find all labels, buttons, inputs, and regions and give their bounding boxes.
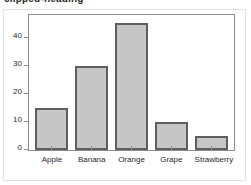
x-axis-tick bbox=[75, 146, 108, 151]
y-axis-tick-mark bbox=[24, 121, 28, 122]
x-axis-category-label: Strawberry bbox=[195, 155, 228, 167]
y-axis: 010203040 bbox=[0, 0, 28, 185]
x-axis-tick-mark bbox=[171, 146, 172, 150]
x-axis-category-label: Grape bbox=[155, 155, 188, 167]
bar[interactable] bbox=[115, 23, 148, 150]
bar-slot bbox=[75, 15, 108, 150]
bar[interactable] bbox=[75, 66, 108, 150]
x-axis-category-label: Orange bbox=[115, 155, 148, 167]
x-axis-labels: AppleBananaOrangeGrapeStrawberry bbox=[29, 155, 234, 167]
y-axis-tick-label: 40 bbox=[13, 32, 22, 40]
y-axis-tick-mark bbox=[24, 37, 28, 38]
x-axis-tick-mark bbox=[51, 146, 52, 150]
y-axis-tick-label: 20 bbox=[13, 88, 22, 96]
chart-screenshot: clipped-heading 010203040 AppleBananaOra… bbox=[0, 0, 251, 185]
y-axis-tick-label: 10 bbox=[13, 116, 22, 124]
bar-slot bbox=[35, 15, 68, 150]
x-axis-tick bbox=[35, 146, 68, 151]
x-axis-category-label: Banana bbox=[75, 155, 108, 167]
x-axis-tick-mark bbox=[131, 146, 132, 150]
y-axis-tick-mark bbox=[24, 65, 28, 66]
bar-slot bbox=[115, 15, 148, 150]
x-axis-tick bbox=[195, 146, 228, 151]
y-axis-tick-label: 30 bbox=[13, 60, 22, 68]
x-axis-ticks bbox=[29, 146, 234, 151]
x-axis-tick-mark bbox=[91, 146, 92, 150]
bar[interactable] bbox=[35, 108, 68, 150]
x-axis-tick bbox=[155, 146, 188, 151]
y-axis-tick-mark bbox=[24, 149, 28, 150]
x-axis-category-label: Apple bbox=[35, 155, 68, 167]
bar-slot bbox=[155, 15, 188, 150]
bar-series bbox=[29, 15, 234, 150]
x-axis-tick bbox=[115, 146, 148, 151]
y-axis-tick-mark bbox=[24, 93, 28, 94]
y-axis-tick-label: 0 bbox=[18, 144, 22, 152]
plot-area bbox=[29, 15, 234, 150]
bar-slot bbox=[195, 15, 228, 150]
x-axis-tick-mark bbox=[211, 146, 212, 150]
